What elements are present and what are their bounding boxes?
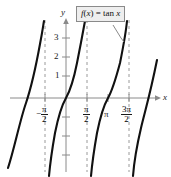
y-tick-label-2: 2 — [54, 52, 59, 61]
x-axis — [10, 95, 161, 101]
x-tick-three-pi-over-2-denominator: 2 — [121, 114, 132, 124]
x-axis-label: x — [163, 93, 167, 102]
tangent-function-figure: f(x) = tan x y x 3 2 1 − π 2 π 2 π 3π 2 — [0, 0, 171, 177]
function-label-var-2: x — [116, 8, 120, 18]
y-tick-label-1: 1 — [55, 71, 60, 80]
y-axis-label: y — [61, 8, 65, 17]
x-tick-label-pi: π — [104, 110, 109, 119]
y-tick-label-3: 3 — [54, 33, 59, 42]
x-tick-three-pi-over-2-numerator: 3π — [121, 105, 132, 114]
tangent-branch-1 — [8, 21, 44, 168]
x-tick-label-three-pi-over-2: 3π 2 — [121, 105, 132, 125]
function-label-box: f(x) = tan x — [76, 6, 125, 22]
x-tick-neg-pi-denominator: 2 — [41, 114, 48, 124]
callout-leader-line — [113, 25, 124, 42]
function-label-equals: = tan — [94, 8, 117, 18]
x-tick-neg-pi-numerator: π — [41, 105, 48, 114]
x-tick-pi-over-2-numerator: π — [83, 105, 90, 114]
plot-canvas — [0, 0, 171, 177]
x-tick-neg-sign: − — [36, 109, 41, 118]
x-tick-label-neg-pi-over-2: − π 2 — [41, 105, 48, 125]
x-tick-label-pi-over-2: π 2 — [83, 105, 90, 125]
x-tick-pi-over-2-denominator: 2 — [83, 114, 90, 124]
tangent-branch-4 — [133, 60, 157, 176]
